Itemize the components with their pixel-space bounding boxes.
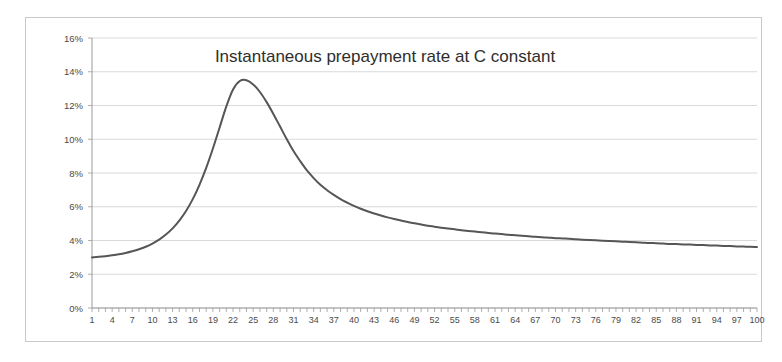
x-tick-label: 19 (208, 315, 218, 325)
y-tick-label: 2% (69, 269, 83, 280)
x-tick-label: 4 (110, 315, 115, 325)
x-tick-label: 91 (692, 315, 702, 325)
x-tick-label: 61 (490, 315, 500, 325)
chart-plot-area: 16%14%12%10%8%6%4%2%0% 14710131619222528… (0, 0, 782, 362)
x-tick-label: 67 (530, 315, 540, 325)
x-tick-label: 100 (749, 315, 764, 325)
y-axis-tick-labels: 16%14%12%10%8%6%4%2%0% (64, 33, 84, 314)
series-line-prepayment-rate (92, 80, 757, 258)
x-tick-label: 31 (289, 315, 299, 325)
x-tick-label: 55 (450, 315, 460, 325)
x-tick-label: 97 (732, 315, 742, 325)
y-tick-label: 8% (69, 168, 83, 179)
x-tick-label: 7 (130, 315, 135, 325)
x-tick-label: 43 (369, 315, 379, 325)
y-tick-label: 0% (69, 303, 83, 314)
x-tick-label: 85 (651, 315, 661, 325)
x-tick-label: 49 (409, 315, 419, 325)
x-tick-label: 37 (329, 315, 339, 325)
x-tick-label: 28 (268, 315, 278, 325)
x-tick-label: 1 (89, 315, 94, 325)
y-tick-label: 12% (64, 100, 84, 111)
x-tick-label: 25 (248, 315, 258, 325)
y-tick-label: 6% (69, 201, 83, 212)
x-tick-label: 64 (510, 315, 520, 325)
x-tick-label: 52 (430, 315, 440, 325)
x-axis-tick-labels: 1471013161922252831343740434649525558616… (89, 315, 764, 325)
y-tick-label: 10% (64, 134, 84, 145)
x-tick-label: 16 (188, 315, 198, 325)
x-tick-label: 58 (470, 315, 480, 325)
chart-title: Instantaneous prepayment rate at C const… (215, 47, 555, 66)
x-tick-label: 10 (147, 315, 157, 325)
y-tick-label: 4% (69, 235, 83, 246)
x-tick-label: 46 (389, 315, 399, 325)
x-tick-label: 34 (309, 315, 319, 325)
x-tick-label: 82 (631, 315, 641, 325)
y-tick-label: 14% (64, 66, 84, 77)
x-axis-tickmarks (92, 308, 757, 312)
x-tick-label: 13 (168, 315, 178, 325)
x-tick-label: 22 (228, 315, 238, 325)
x-tick-label: 88 (671, 315, 681, 325)
x-tick-label: 79 (611, 315, 621, 325)
x-tick-label: 40 (349, 315, 359, 325)
x-tick-label: 73 (571, 315, 581, 325)
x-tick-label: 94 (712, 315, 722, 325)
y-tick-label: 16% (64, 33, 84, 44)
x-tick-label: 76 (591, 315, 601, 325)
gridlines (88, 38, 757, 308)
x-tick-label: 70 (550, 315, 560, 325)
